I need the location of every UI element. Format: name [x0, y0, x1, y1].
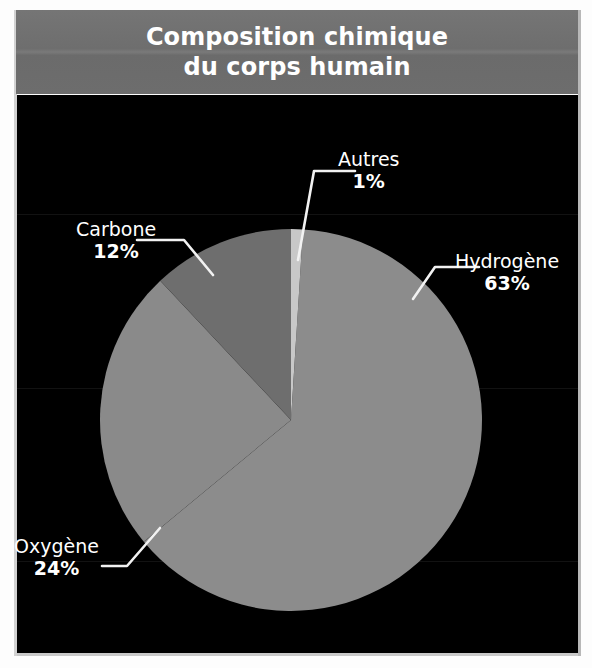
pie-label-autres-name: Autres: [338, 148, 399, 170]
pie-label-carbone-name: Carbone: [76, 218, 156, 240]
pie-label-hydrogene-name: Hydrogène: [455, 250, 559, 272]
pie-label-oxygene-name: Oxygène: [14, 535, 99, 557]
pie-label-hydrogene-value: 63%: [455, 272, 559, 294]
pie-label-oxygene: Oxygène 24%: [14, 535, 99, 579]
pie-label-oxygene-value: 24%: [14, 557, 99, 579]
chart-title-band: Composition chimique du corps humain: [16, 10, 578, 94]
chart-title-line-1: Composition chimique: [146, 22, 448, 52]
chart-title-line-2: du corps humain: [183, 52, 410, 82]
pie-label-autres: Autres 1%: [338, 148, 399, 192]
pie-label-hydrogene: Hydrogène 63%: [455, 250, 559, 294]
chart-plot-area: [17, 95, 578, 655]
pie-slices: [100, 229, 482, 611]
pie-label-autres-value: 1%: [338, 170, 399, 192]
frame-border-right: [578, 10, 581, 656]
pie-chart-svg: [17, 95, 578, 655]
figure-root: Composition chimique du corps humain: [0, 0, 592, 668]
pie-label-carbone-value: 12%: [76, 240, 156, 262]
frame-border-bottom: [17, 653, 578, 656]
pie-label-carbone: Carbone 12%: [76, 218, 156, 262]
